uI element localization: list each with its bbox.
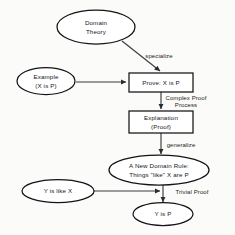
explanation-proof-label-line2: (Proof) [151,123,171,130]
explanation-proof-label-line1: Explanation [144,114,178,121]
edge-label-specialize: specialize [145,53,173,59]
edge-label-generalize: generalize [167,142,196,148]
example-label-line1: Example [33,73,59,80]
domain-theory-label-line1: Domain [85,19,108,26]
prove-x-is-p-label: Prove: X is P [142,79,180,86]
node-explanation-proof[interactable]: Explanation (Proof) [129,111,193,133]
example-label-line2: (X is P) [35,82,56,89]
node-example[interactable]: Example (X is P) [17,68,75,95]
new-domain-rule-label-line1: A New Domain Rule: [129,162,189,169]
new-domain-rule-label-line2: Things "like" X are P [129,171,188,178]
edge-complex-proof-process: Complex Proof Process [161,92,207,109]
node-domain-theory[interactable]: Domain Theory [57,10,135,44]
diagram-canvas: specialize Complex Proof Process general… [0,0,235,235]
node-y-is-like-x[interactable]: Y is like X [22,180,94,203]
edge-generalize: generalize [161,133,196,154]
edge-specialize: specialize [122,41,173,71]
flowchart-svg: specialize Complex Proof Process general… [0,0,235,235]
y-is-p-label: Y is P [155,210,172,217]
node-y-is-p[interactable]: Y is P [133,203,193,226]
domain-theory-label-line2: Theory [86,28,107,35]
edge-label-trivial-proof: Trivial Proof [175,189,208,195]
edge-label-complex-proof-line2: Process [175,102,197,108]
edge-trivial-proof: Trivial Proof [163,185,209,202]
edge-label-complex-proof: Complex Proof [166,95,207,101]
node-prove-x-is-p[interactable]: Prove: X is P [129,73,193,92]
node-new-domain-rule[interactable]: A New Domain Rule: Things "like" X are P [109,155,209,185]
y-is-like-x-label: Y is like X [44,187,73,194]
